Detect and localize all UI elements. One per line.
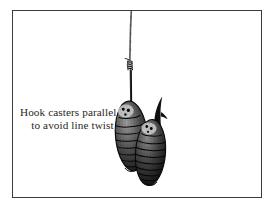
knot-whipping [124, 58, 133, 70]
caption-line-2: to avoid line twist [16, 119, 120, 132]
caption-block: Hook casters parallel to avoid line twis… [16, 106, 120, 133]
hook-shank [130, 70, 131, 100]
caption-line-1: Hook casters parallel [16, 106, 120, 119]
figure-root: Hook casters parallel to avoid line twis… [0, 0, 274, 212]
fishing-line [130, 11, 132, 60]
